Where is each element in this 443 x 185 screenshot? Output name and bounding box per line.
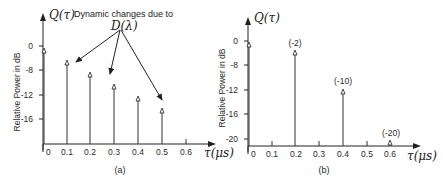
ytick-label: 0	[28, 41, 33, 51]
x-axis-title-a: τ(μs)	[204, 146, 234, 160]
xtick-label: 0.6	[180, 147, 192, 157]
xtick-label: 0.2	[84, 147, 96, 157]
y-axis-arrow-icon	[40, 13, 46, 21]
q-tau-label-a: Q(τ)	[49, 8, 75, 22]
chart-a: 0 -8 -12 -16 Relative Power in dB Q(τ) D…	[12, 8, 234, 175]
annotation-text: Dynamic changes due to	[74, 9, 173, 19]
annotation-math: D(λ)	[110, 19, 138, 33]
y-axis-arrow-icon	[245, 17, 251, 25]
xtick-label: 0.1	[61, 147, 73, 157]
xtick-label: 0.1	[266, 149, 278, 159]
xtick-label: 0.4	[337, 149, 349, 159]
stems-b	[247, 42, 392, 146]
stems-a	[42, 48, 186, 144]
ytick-label: -12	[226, 85, 239, 95]
xtick-label: 0.5	[361, 149, 373, 159]
chart-b: 0 -8 -12 -16 -20 Relative Power in dB Q(…	[217, 11, 437, 175]
q-tau-label-b: Q(τ)	[254, 11, 280, 25]
figure: 0 -8 -12 -16 Relative Power in dB Q(τ) D…	[0, 0, 443, 185]
caption-b: (b)	[319, 165, 330, 175]
xtick-label: 0.3	[313, 149, 325, 159]
xtick-label: 0	[251, 149, 256, 159]
xtick-label: 0.2	[290, 149, 302, 159]
value-label: (-10)	[334, 76, 352, 86]
ytick-label: -8	[230, 60, 238, 70]
value-label: (-2)	[288, 38, 301, 48]
ytick-label: -16	[21, 114, 34, 124]
ytick-label: -8	[25, 65, 33, 75]
ytick-label: -20	[226, 134, 239, 144]
annotation-arrow	[121, 30, 162, 100]
xtick-label: 0	[46, 147, 51, 157]
xtick-label: 0.3	[108, 147, 120, 157]
caption-a: (a)	[115, 165, 126, 175]
xtick-label: 0.5	[156, 147, 168, 157]
ytick-label: 0	[233, 36, 238, 46]
x-axis-title-b: τ(μs)	[407, 149, 437, 163]
ytick-label: -12	[21, 90, 34, 100]
y-axis-title-a: Relative Power in dB	[12, 52, 22, 131]
xtick-label: 0.6	[384, 149, 396, 159]
xtick-label: 0.4	[132, 147, 144, 157]
ytick-label: -16	[226, 109, 239, 119]
value-label: (-20)	[382, 128, 400, 138]
y-axis-title-b: Relative Power in dB	[217, 48, 227, 127]
